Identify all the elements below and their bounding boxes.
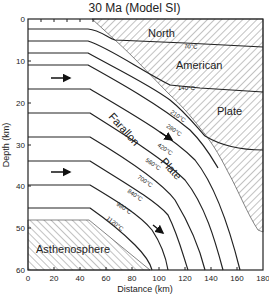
x-tick-label: 0: [26, 274, 31, 283]
x-tick-label: 160: [230, 274, 244, 283]
isotherm-label: 420°C: [156, 142, 174, 157]
isotherm-label: 70°C: [184, 43, 198, 50]
x-tick-label: 120: [178, 274, 192, 283]
asthenosphere-label: Asthenosphere: [36, 243, 110, 255]
y-tick-label: 0: [21, 15, 26, 24]
x-tick-label: 100: [152, 274, 166, 283]
y-axis-title: Depth (km): [1, 123, 11, 168]
x-tick-label: 40: [76, 274, 85, 283]
plate-label-farallon: Plate: [159, 155, 185, 182]
arrow-icon: [160, 132, 172, 140]
y-tick-label: 40: [16, 182, 25, 191]
y-tick-label: 30: [16, 141, 25, 150]
y-tick-label: 10: [16, 57, 25, 66]
isotherm-label: 280°C: [165, 123, 183, 138]
american-label: American: [176, 59, 222, 71]
x-tick-label: 80: [128, 274, 137, 283]
isotherm-label: 700°C: [136, 174, 154, 189]
farallon-label: Farallon: [107, 110, 143, 148]
plate-label-na: Plate: [217, 105, 242, 117]
x-axis-title: Distance (km): [117, 284, 173, 294]
x-tick-label: 180: [256, 274, 269, 283]
north-label: North: [148, 27, 175, 39]
x-tick-label: 140: [204, 274, 218, 283]
y-tick-label: 60: [16, 266, 25, 275]
y-tick-label: 20: [16, 99, 25, 108]
isotherm-label: 140°C: [178, 85, 195, 91]
x-tick-label: 20: [50, 274, 59, 283]
isotherm-label: 980°C: [115, 201, 133, 216]
y-tick-label: 50: [16, 224, 25, 233]
x-tick-label: 60: [102, 274, 111, 283]
arrow-icon: [153, 225, 163, 233]
thermal-model-diagram: 0 10 20 30 40 50 60 0 20 40 60 80 100 12…: [0, 0, 269, 294]
isotherm-label: 1120°C: [105, 215, 125, 232]
